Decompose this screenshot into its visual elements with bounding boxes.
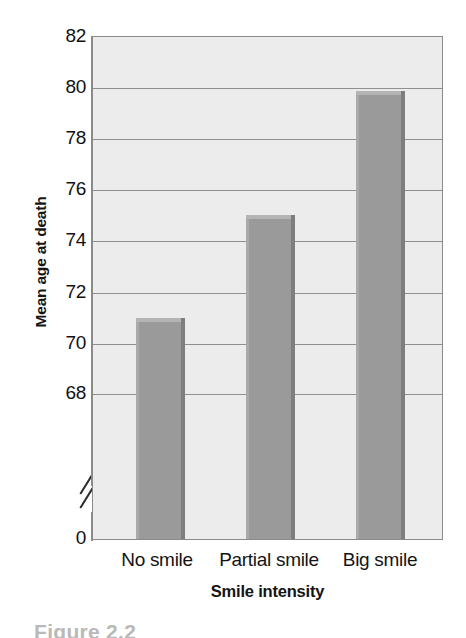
y-tick-label-74: 74: [52, 229, 86, 251]
y-tick-label-78: 78: [52, 127, 86, 149]
y-axis-tick-labels: 82 80 78 76 74 72 70 68 0: [46, 0, 86, 638]
y-tick-label-80: 80: [52, 76, 86, 98]
bar-left-highlight: [246, 215, 249, 539]
bar-partial-smile[interactable]: [246, 215, 295, 539]
bar-big-smile[interactable]: [356, 91, 405, 539]
y-tick-label-0: 0: [52, 527, 86, 549]
bar-top-highlight: [136, 318, 185, 322]
bar-right-shadow: [401, 91, 405, 539]
gridline-80: [93, 88, 442, 89]
x-tick-label-big-smile: Big smile: [310, 549, 450, 571]
figure-root: Mean age at death 82 80 78 76 74 72 70 6…: [0, 0, 466, 638]
bar-no-smile[interactable]: [136, 318, 185, 539]
bar-left-highlight: [356, 91, 359, 539]
y-tick-label-72: 72: [52, 281, 86, 303]
x-axis-tick-labels: No smile Partial smile Big smile: [92, 549, 443, 579]
x-axis-title: Smile intensity: [92, 582, 443, 601]
bar-right-shadow: [181, 318, 185, 539]
bar-top-highlight: [356, 91, 405, 95]
y-tick-label-76: 76: [52, 178, 86, 200]
bar-top-highlight: [246, 215, 295, 219]
figure-caption: Figure 2.2: [34, 620, 136, 638]
y-tick-label-70: 70: [52, 332, 86, 354]
bar-left-highlight: [136, 318, 139, 539]
bar-right-shadow: [291, 215, 295, 539]
plot-area: [92, 36, 443, 540]
y-tick-label-82: 82: [52, 25, 86, 47]
y-tick-label-68: 68: [52, 382, 86, 404]
